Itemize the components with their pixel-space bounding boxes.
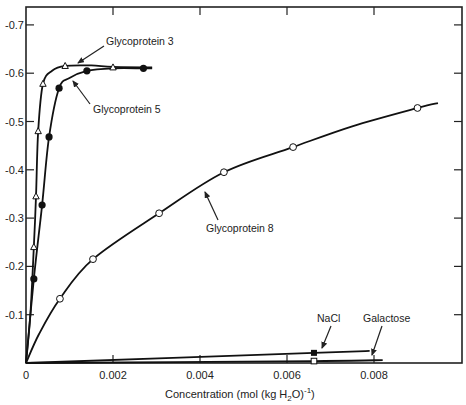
marker-glycoprotein-3 [35, 128, 41, 134]
x-tick-label: 0.006 [273, 369, 301, 381]
label-galactose: Galactose [363, 312, 410, 324]
marker-glycoprotein-8 [156, 210, 163, 217]
x-tick-label: 0.008 [360, 369, 388, 381]
marker-glycoprotein-8 [290, 144, 297, 151]
marker-glycoprotein-5 [30, 275, 37, 282]
arrow-glycoprotein-8 [205, 192, 218, 220]
y-tick-label: -0.4 [5, 164, 24, 176]
x-tick-label: 0.002 [99, 369, 127, 381]
label-nacl: NaCl [317, 312, 340, 324]
marker-glycoprotein-3 [40, 80, 46, 86]
y-tick-label: -0.5 [5, 116, 24, 128]
arrow-galactose [372, 326, 382, 355]
annotations: Glycoprotein 3 Glycoprotein 5 Glycoprote… [73, 35, 410, 355]
label-glycoprotein-8: Glycoprotein 8 [206, 222, 274, 234]
y-tick-label: -0.3 [5, 212, 24, 224]
chart: 00.0020.0040.0060.008 -0.1-0.2-0.3-0.4-0… [0, 0, 466, 405]
marker-glycoprotein-3 [31, 244, 37, 250]
label-glycoprotein-5: Glycoprotein 5 [93, 103, 161, 115]
y-tick-label: -0.1 [5, 309, 24, 321]
marker-nacl [311, 350, 317, 356]
marker-glycoprotein-5 [83, 67, 90, 74]
plot-frame [26, 7, 462, 363]
marker-galactose [311, 358, 317, 364]
marker-glycoprotein-5 [38, 201, 45, 208]
x-tick-label: 0 [23, 369, 29, 381]
marker-glycoprotein-5 [45, 133, 52, 140]
marker-glycoprotein-5 [55, 85, 62, 92]
y-tick-label: -0.7 [5, 19, 24, 31]
marker-glycoprotein-3 [33, 193, 39, 199]
arrow-glycoprotein-3 [78, 46, 104, 63]
marker-glycoprotein-8 [221, 169, 228, 176]
x-axis-label: Concentration (mol (kg H2O)-1) [165, 386, 315, 403]
y-tick-label: -0.2 [5, 260, 24, 272]
x-tick-label: 0.004 [186, 369, 214, 381]
marker-glycoprotein-5 [140, 65, 147, 72]
y-tick-label: -0.6 [5, 67, 24, 79]
marker-glycoprotein-8 [57, 295, 64, 302]
arrow-nacl [322, 326, 331, 348]
arrow-glycoprotein-5 [73, 81, 90, 104]
marker-glycoprotein-8 [414, 105, 421, 112]
marker-glycoprotein-8 [90, 256, 97, 263]
y-axis-ticks: -0.1-0.2-0.3-0.4-0.5-0.6-0.7 [5, 19, 462, 321]
label-glycoprotein-3: Glycoprotein 3 [106, 35, 174, 47]
